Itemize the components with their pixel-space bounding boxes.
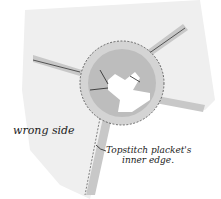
topstitch-note-line1: Topstitch placket's	[106, 145, 191, 155]
topstitch-note-line2: inner edge.	[122, 155, 174, 165]
wrong-side-label: wrong side	[13, 124, 75, 137]
sewing-illustration	[0, 0, 221, 199]
